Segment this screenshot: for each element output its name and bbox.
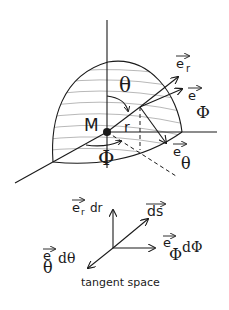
svg-text:Φ: Φ (196, 102, 210, 122)
radius-label: r (124, 119, 130, 135)
tangent-e-phi-dphi-label: e Φ dΦ (163, 235, 202, 264)
svg-text:e: e (188, 88, 196, 103)
tangent-e-r-dr-label: e r dr (72, 200, 103, 217)
e-phi-label: e Φ (188, 88, 210, 122)
equator-arc (53, 132, 182, 163)
hemisphere-outline (53, 61, 182, 162)
phi-label: Φ (98, 146, 114, 170)
tangent-space: e r dr ds e Φ dΦ e θ dθ tangent space (43, 200, 202, 289)
tangent-e-theta-dtheta-vector (88, 248, 113, 268)
svg-text:r: r (186, 63, 191, 74)
e-theta-vector (140, 107, 166, 143)
tangent-e-theta-dtheta-label: e θ dθ (43, 248, 75, 277)
svg-text:Φ: Φ (169, 245, 182, 264)
svg-text:ds: ds (147, 203, 163, 219)
svg-text:dθ: dθ (58, 250, 75, 266)
tangent-ds-label: ds (146, 203, 165, 219)
svg-text:e: e (176, 56, 184, 71)
svg-text:e: e (173, 144, 181, 159)
svg-text:e: e (72, 200, 80, 215)
x-axis (15, 132, 107, 183)
theta-label: θ (119, 73, 131, 97)
origin-label: M (84, 115, 99, 135)
tangent-ds-vector (113, 219, 148, 248)
spherical-coordinates-diagram: M r θ Φ e r e Φ e θ e r dr ds (0, 0, 229, 310)
e-theta-label: e θ (173, 144, 191, 173)
e-r-label: e r (176, 56, 191, 74)
e-phi-vector (140, 89, 182, 107)
svg-text:θ: θ (181, 154, 191, 173)
tangent-space-caption: tangent space (81, 276, 160, 289)
e-r-vector (140, 77, 178, 107)
svg-text:θ: θ (43, 258, 53, 277)
svg-text:dr: dr (90, 201, 103, 215)
svg-text:dΦ: dΦ (182, 239, 202, 255)
theta-arc (107, 96, 128, 111)
svg-text:r: r (81, 207, 85, 217)
azimuth-projection (107, 132, 176, 176)
origin-point (103, 128, 111, 136)
